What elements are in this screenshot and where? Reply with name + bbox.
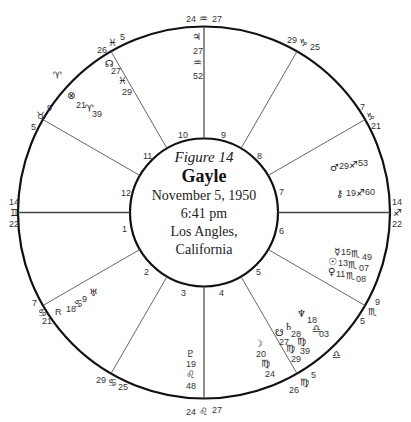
house-number-6: 6 — [279, 226, 284, 236]
cusp3-minutes: 25 — [118, 382, 128, 392]
subject-name: Gayle — [130, 166, 278, 187]
planet-pluto: ♇ 19 ♌ 48 — [186, 348, 196, 391]
mc-sign-aquarius-icon: ♒ — [199, 13, 208, 24]
house-number-4: 4 — [219, 288, 224, 298]
svg-text:53: 53 — [358, 158, 368, 168]
intercepted-aries-icon: ♈ — [53, 70, 62, 81]
svg-text:60: 60 — [365, 187, 375, 197]
cusp5-degree: 26 — [289, 385, 299, 395]
cusp9-degree: 29 — [287, 35, 297, 45]
cusp11-degree: 26 — [97, 45, 107, 55]
retrograde-marker: R — [55, 307, 62, 317]
virgo-icon: ♍ — [286, 343, 295, 354]
pluto-icon: ♇ — [186, 348, 195, 359]
svg-text:19: 19 — [186, 359, 196, 369]
mars-icon: ♂ — [330, 162, 339, 173]
chiron-icon: ⚷ — [336, 188, 343, 199]
asc-minutes: 22 — [9, 219, 19, 229]
planet-moon: ☽ 20 ♍ 24 — [254, 338, 275, 379]
svg-text:29: 29 — [122, 87, 132, 97]
svg-text:11: 11 — [336, 269, 345, 279]
planet-jupiter: ♃ 27 ♒ 52 — [192, 31, 203, 81]
cusp6-minutes: 5 — [360, 316, 365, 326]
cusp11-minutes: 5 — [120, 32, 125, 42]
cusp12-degree: 9 — [47, 103, 52, 113]
planet-neptune: ♆ 18 ♎ 03 — [297, 308, 329, 339]
ic-degree: 24 — [186, 407, 196, 417]
birth-time: 6:41 pm — [130, 205, 278, 223]
figure-label: Figure 14 — [130, 148, 278, 166]
planet-chiron: ⚷ 19 ♐ 60 — [336, 187, 375, 199]
svg-text:48: 48 — [186, 381, 196, 391]
leo-icon: ♌ — [186, 369, 195, 380]
svg-text:49: 49 — [362, 252, 372, 262]
house-number-1: 1 — [122, 224, 127, 234]
svg-text:39: 39 — [300, 346, 310, 356]
svg-text:52: 52 — [193, 71, 203, 81]
sagittarius-icon: ♐ — [356, 187, 365, 198]
cusp5-sign-virgo-icon: ♍ — [300, 377, 309, 388]
svg-text:13: 13 — [338, 258, 348, 268]
cusp9-minutes: 25 — [310, 42, 320, 52]
dsc-degree: 14 — [392, 197, 402, 207]
svg-text:03: 03 — [319, 329, 329, 339]
cusp3-degree: 29 — [96, 375, 106, 385]
sagittarius-icon: ♐ — [349, 159, 358, 170]
uranus-icon: ♅ — [89, 287, 98, 298]
moon-icon: ☽ — [254, 338, 263, 349]
cusp12-minutes: 5 — [31, 122, 36, 132]
cusp5-minutes: 5 — [311, 370, 316, 380]
mc-minutes: 27 — [212, 14, 222, 24]
asc-sign-gemini-icon: ♊ — [10, 207, 19, 218]
venus-icon: ♀ — [328, 266, 335, 277]
cusp8-degree: 7 — [360, 102, 365, 112]
svg-text:9: 9 — [82, 294, 87, 304]
cusp2-degree: 7 — [32, 298, 37, 308]
mc-degree: 24 — [186, 14, 196, 24]
house-number-3: 3 — [181, 288, 186, 298]
svg-text:19: 19 — [346, 188, 356, 198]
birth-place-city: Los Angles, — [130, 223, 278, 241]
cusp-line-12 — [43, 120, 140, 176]
cusp-line-9 — [241, 51, 297, 148]
planet-part-of-fortune: ⊗ 21 ♈ 39 — [67, 90, 102, 119]
svg-text:07: 07 — [359, 263, 369, 273]
ic-minutes: 27 — [212, 405, 222, 415]
virgo-icon: ♍ — [261, 358, 270, 369]
cusp3-sign-cancer-icon: ♋ — [108, 377, 117, 388]
asc-degree: 14 — [9, 197, 19, 207]
part-of-fortune-icon: ⊗ — [67, 90, 75, 101]
cusp9-sign-capricorn-icon: ♑ — [299, 37, 308, 48]
jupiter-icon: ♃ — [192, 31, 201, 42]
cusp2-minutes: 21 — [42, 316, 52, 326]
house-number-9: 9 — [221, 130, 226, 140]
svg-text:29: 29 — [339, 161, 349, 171]
scorpio-icon: ♏ — [346, 270, 355, 281]
house-number-2: 2 — [144, 267, 149, 277]
birth-date: November 5, 1950 — [130, 187, 278, 205]
dsc-sign-sagittarius-icon: ♐ — [393, 207, 402, 218]
svg-text:24: 24 — [265, 369, 275, 379]
cusp12-sign-taurus-icon: ♉ — [36, 110, 45, 121]
neptune-icon: ♆ — [297, 308, 306, 319]
svg-text:27: 27 — [193, 46, 203, 56]
cusp11-sign-pisces-icon: ♓ — [108, 37, 117, 48]
dsc-minutes: 22 — [392, 219, 402, 229]
scorpio-icon: ♏ — [348, 259, 357, 270]
house-number-7: 7 — [279, 187, 284, 197]
house-number-5: 5 — [256, 267, 261, 277]
chart-caption: Figure 14 Gayle November 5, 1950 6:41 pm… — [130, 148, 278, 259]
cusp6-sign-scorpio-icon: ♏ — [368, 306, 377, 317]
intercepted-libra-icon: ♎ — [332, 349, 341, 360]
planet-uranus: R 18 ♋ 9 ♅ — [55, 287, 98, 317]
house-number-10: 10 — [178, 130, 188, 140]
pisces-icon: ♓ — [118, 75, 127, 86]
svg-text:39: 39 — [92, 109, 102, 119]
scorpio-icon: ♏ — [351, 248, 360, 259]
svg-text:15: 15 — [341, 247, 351, 257]
aquarius-icon: ♒ — [193, 57, 202, 68]
cusp-line-3 — [111, 277, 167, 374]
ic-sign-leo-icon: ♌ — [199, 406, 208, 417]
birth-place-state: California — [130, 241, 278, 259]
planet-mars: ♂ 29 ♐ 53 — [330, 158, 368, 173]
